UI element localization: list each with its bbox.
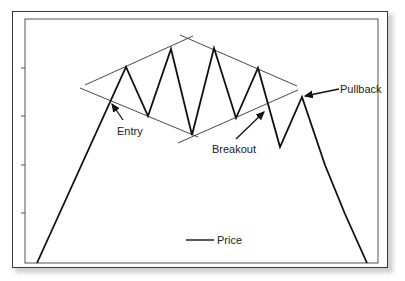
pullback-label: Pullback <box>340 83 382 95</box>
trendlines <box>80 35 298 143</box>
entry-label: Entry <box>117 125 143 137</box>
legend: Price <box>186 234 242 246</box>
trendline-upper-left <box>85 36 193 85</box>
trendline-upper-right <box>180 35 297 86</box>
entry-arrow-icon <box>112 104 123 120</box>
plot-frame <box>25 19 378 263</box>
breakout-arrow-icon <box>236 112 264 139</box>
legend-price-label: Price <box>217 234 242 246</box>
chart-svg: Entry Breakout Pullback Price <box>0 0 405 281</box>
price-line <box>37 48 367 263</box>
y-axis-ticks <box>21 68 25 213</box>
breakout-label: Breakout <box>212 143 256 155</box>
pullback-arrow-icon <box>305 89 339 96</box>
figure: Entry Breakout Pullback Price <box>0 0 405 281</box>
annotation-arrows <box>112 89 339 139</box>
